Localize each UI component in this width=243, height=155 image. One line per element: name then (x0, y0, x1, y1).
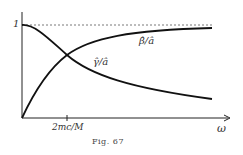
x-tick-label: 2mc/M (52, 122, 84, 132)
figure-caption: Fig. 67 (92, 137, 124, 146)
beta-curve-label: β̂/â (139, 35, 154, 46)
plot-canvas (0, 0, 243, 155)
y-tick-label: 1 (13, 18, 19, 29)
gamma-curve-label: γ̂/â (93, 56, 108, 67)
x-axis-label: ω (217, 122, 226, 135)
beta-curve (22, 28, 212, 118)
